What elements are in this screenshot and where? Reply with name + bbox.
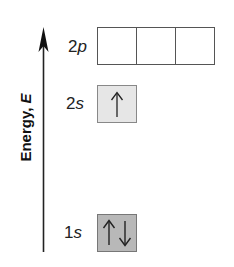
orbital-box-1s-1	[97, 214, 137, 252]
spin-pair-arrows-icon	[101, 218, 133, 248]
level-label-2p: 2p	[68, 37, 87, 57]
level-subshell: p	[77, 37, 86, 56]
level-subshell: s	[75, 94, 84, 113]
axis-label: Energy, E	[14, 77, 36, 177]
spin-up-arrow-icon	[104, 221, 115, 246]
spin-down-arrow-icon	[120, 221, 131, 246]
level-label-2s: 2s	[66, 94, 84, 114]
orbital-row-2s	[97, 85, 136, 123]
axis-label-text: Energy,	[17, 103, 34, 161]
axis-variable: E	[17, 93, 34, 103]
level-subshell: s	[73, 223, 82, 242]
orbital-box-2p-3	[175, 27, 215, 65]
orbital-box-2p-2	[136, 27, 176, 65]
level-label-1s: 1s	[64, 223, 82, 243]
orbital-row-1s	[97, 214, 136, 252]
orbital-box-2s-1	[97, 85, 137, 123]
spin-up-arrow-icon	[110, 90, 124, 118]
orbital-box-2p-1	[97, 27, 137, 65]
orbital-row-2p	[97, 27, 215, 65]
